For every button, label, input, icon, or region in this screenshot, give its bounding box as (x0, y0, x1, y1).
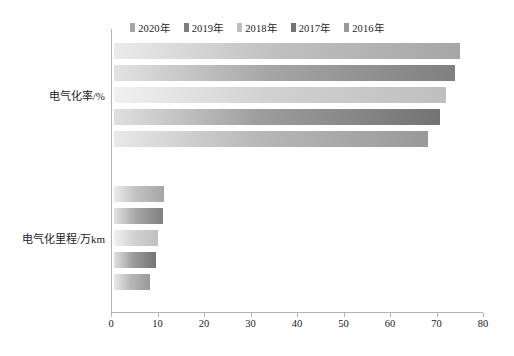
x-axis-tick-label: 30 (245, 318, 256, 329)
bar (114, 230, 158, 246)
bar-chart: 2020年2019年2018年2017年2016年 01020304050607… (0, 0, 514, 356)
x-axis-tick (483, 313, 484, 317)
x-axis-tick-label: 50 (338, 318, 349, 329)
bar (114, 43, 460, 59)
x-axis-tick-label: 0 (108, 318, 113, 329)
x-axis-tick (158, 313, 159, 317)
bar (114, 252, 156, 268)
x-axis-tick (390, 313, 391, 317)
bar (114, 65, 455, 81)
x-axis-tick (344, 313, 345, 317)
bar (114, 186, 164, 202)
x-axis-tick-label: 10 (152, 318, 163, 329)
x-axis-tick (437, 313, 438, 317)
bar (114, 274, 150, 290)
x-axis-tick-label: 80 (478, 318, 489, 329)
y-axis-category-label: 电气化里程/万km (22, 230, 105, 246)
bar (114, 87, 446, 103)
plot-area: 01020304050607080 (111, 29, 483, 313)
y-axis-line (111, 29, 112, 313)
x-axis-tick (297, 313, 298, 317)
x-axis-tick (111, 313, 112, 317)
x-axis-tick (204, 313, 205, 317)
bar (114, 109, 440, 125)
x-axis-tick (251, 313, 252, 317)
bar (114, 208, 163, 224)
x-axis-tick-label: 70 (431, 318, 442, 329)
x-axis-tick-label: 40 (292, 318, 303, 329)
bar (114, 131, 428, 147)
y-axis-category-label: 电气化率/% (49, 87, 105, 103)
x-axis-tick-label: 60 (385, 318, 396, 329)
x-axis-tick-label: 20 (199, 318, 210, 329)
